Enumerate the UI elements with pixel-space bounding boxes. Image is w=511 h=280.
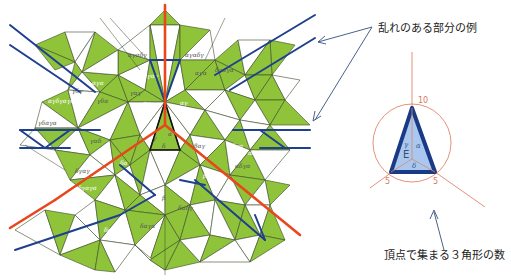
svg-text:αγα: αγα [195, 69, 207, 77]
tiling-diagram: αγαδγ αγαγ αγαδγ αγα γαγ αγ αγ δγαγα αγδ… [0, 0, 511, 280]
annotation-disorder: 乱れのある部分の例 [378, 21, 477, 35]
svg-text:αδγαγ: αδγαγ [248, 149, 267, 157]
svg-text:γαδ: γαδ [90, 137, 102, 145]
svg-text:αγ: αγ [143, 99, 151, 107]
svg-text:γδα: γδα [97, 97, 108, 105]
center-label: E [403, 149, 409, 160]
svg-text:γαγ: γαγ [130, 89, 142, 97]
svg-text:δ: δ [162, 142, 166, 149]
svg-text:γ: γ [153, 134, 157, 142]
tiling [15, 10, 310, 272]
svg-text:α: α [416, 142, 421, 150]
svg-text:αδγα: αδγα [235, 162, 250, 170]
svg-text:δγαγ: δγαγ [75, 167, 90, 175]
vertex-count-top: 10 [418, 96, 428, 105]
svg-text:δγαγα: δγαγα [78, 184, 97, 192]
inset-diagram: 10 5 5 E α γ δ [370, 52, 485, 207]
annotation-vertex-count: 頂点で集まる３角形の数 [384, 248, 505, 262]
svg-text:αγδγαγα: αγδγαγα [48, 97, 75, 105]
svg-text:γδαγα: γδαγα [38, 119, 57, 127]
svg-text:αγ: αγ [180, 99, 188, 107]
svg-text:αγαδγ: αγαδγ [128, 51, 147, 59]
vertex-count-right: 5 [433, 177, 438, 186]
svg-text:δ: δ [412, 162, 416, 170]
svg-text:δαδγ: δαδγ [178, 204, 193, 212]
svg-text:αγα: αγα [92, 79, 104, 87]
svg-text:δαγα: δαγα [104, 226, 119, 234]
svg-text:αδγα: αδγα [228, 142, 243, 150]
svg-text:αγαδγ: αγαδγ [185, 51, 204, 59]
svg-text:β: β [161, 194, 166, 202]
svg-text:βαγα: βαγα [202, 172, 218, 180]
svg-text:δαγα: δαγα [140, 222, 155, 230]
vertex-count-left: 5 [385, 177, 390, 186]
